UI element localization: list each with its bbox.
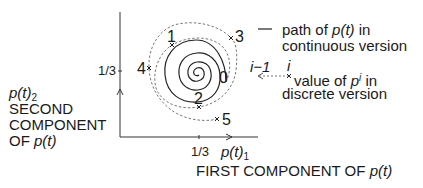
- point-label-5: 5: [222, 111, 231, 128]
- point-label-1: 1: [167, 28, 176, 45]
- legend-continuous-line-1: path of p(t) in: [282, 21, 370, 38]
- legend-discrete-line-2: discrete version: [282, 85, 387, 102]
- y-axis-label-tail: p(t): [34, 132, 57, 149]
- x-axis-tick-label: 1/3: [191, 143, 209, 160]
- y-axis-label-line-3: OF p(t): [9, 132, 57, 149]
- legend-discrete-to-label: i: [287, 57, 290, 74]
- x-axis-subscript: 1: [244, 151, 250, 162]
- point-label-4: 4: [137, 60, 146, 77]
- point-label-2: 2: [194, 90, 203, 107]
- point-label-0: 0: [219, 69, 228, 86]
- x-axis-label-text: FIRST COMPONENT OF: [196, 162, 370, 179]
- point-marker-3: [229, 36, 233, 40]
- legend-continuous-pre: path of: [282, 21, 332, 38]
- y-axis-label-line-1: SECOND: [9, 100, 73, 117]
- point-label-3: 3: [235, 28, 244, 45]
- legend-discrete-from-label: i−1: [250, 58, 270, 75]
- y-axis-label-line-2: COMPONENT: [9, 116, 107, 133]
- legend-continuous-symbol: p(t): [332, 21, 355, 38]
- x-axis-label: FIRST COMPONENT OF p(t): [196, 162, 392, 179]
- y-axis-label-of: OF: [9, 132, 34, 149]
- x-axis-label-tail: p(t): [370, 162, 393, 179]
- legend-continuous-line-2: continuous version: [282, 37, 407, 54]
- legend-continuous-post: in: [355, 21, 371, 38]
- y-axis-symbol-text: p(t): [9, 84, 32, 101]
- y-axis-tick-label: 1/3: [98, 62, 116, 79]
- x-axis-symbol-text: p(t): [221, 143, 244, 160]
